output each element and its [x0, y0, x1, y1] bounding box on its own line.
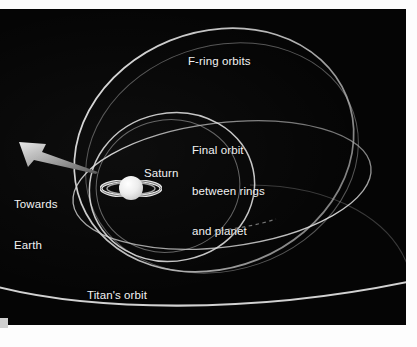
astronomy-diagram-plate: F-ring orbits Final orbit between rings …: [0, 9, 406, 325]
page-margin-right: [406, 0, 417, 347]
towards-earth-arrow-icon: [16, 140, 100, 174]
towards-earth-label: Towards Earth: [14, 171, 58, 279]
final-orbit-label-line3: and planet: [192, 225, 265, 239]
final-orbit-label-line2: between rings: [192, 185, 265, 199]
titans-orbit-label: Titan's orbit: [87, 289, 147, 303]
page-margin-bottom: [0, 325, 417, 347]
final-orbit-label: Final orbit between rings and planet: [192, 117, 265, 266]
titans-orbit-far-limb-path: [250, 185, 406, 281]
final-orbit-label-line1: Final orbit: [192, 144, 265, 158]
page-corner-nick: [0, 318, 8, 328]
towards-earth-label-line2: Earth: [14, 239, 58, 253]
saturn-globe: [119, 176, 143, 200]
titans-orbit-path: [0, 281, 406, 306]
towards-earth-label-line1: Towards: [14, 198, 58, 212]
page-margin-top: [0, 0, 417, 9]
f-ring-orbits-label: F-ring orbits: [188, 55, 251, 69]
figure-canvas: F-ring orbits Final orbit between rings …: [0, 0, 417, 347]
saturn-label: Saturn: [144, 167, 178, 181]
